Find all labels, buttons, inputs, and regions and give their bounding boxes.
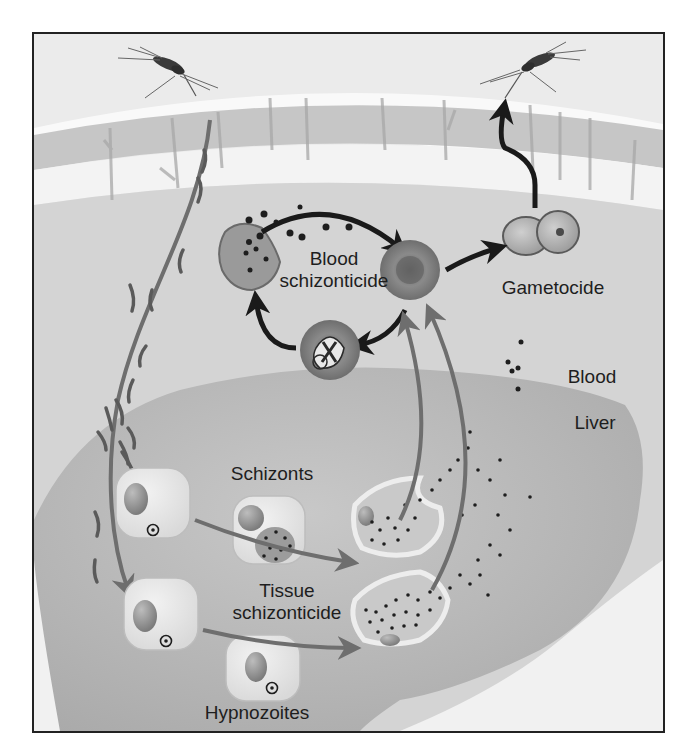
label-liver-region: Liver xyxy=(568,412,622,434)
label-hypnozoites: Hypnozoites xyxy=(197,702,317,724)
label-blood-schizonticide-line2: schizonticide xyxy=(268,270,400,292)
label-tissue-schizonticide-line2: schizonticide xyxy=(222,602,352,624)
malaria-life-cycle-diagram: Blood schizonticide Gametocide Blood Liv… xyxy=(0,0,688,756)
label-blood-region: Blood xyxy=(562,366,622,388)
label-blood-schizonticide-line1: Blood xyxy=(268,248,400,270)
label-schizonts: Schizonts xyxy=(222,463,322,485)
hepatocyte-1-icon xyxy=(116,468,190,538)
label-tissue-schizonticide-line1: Tissue xyxy=(222,580,352,602)
label-tissue-schizonticide: Tissue schizonticide xyxy=(222,580,352,624)
ring-stage-rbc-icon xyxy=(300,320,360,380)
label-blood-schizonticide: Blood schizonticide xyxy=(268,248,400,292)
schizont-cell-icon xyxy=(233,496,305,564)
label-gametocide: Gametocide xyxy=(488,277,618,299)
hepatocyte-2-icon xyxy=(124,578,198,650)
